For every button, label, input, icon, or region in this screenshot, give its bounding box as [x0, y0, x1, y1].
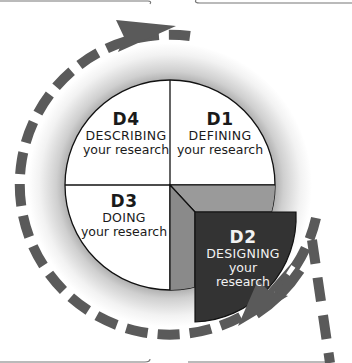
quadrant-d1: D1 DEFINING your research	[172, 110, 268, 157]
quadrant-d2: D2 DESIGNING your research	[198, 228, 288, 289]
d3-code: D3	[78, 192, 170, 211]
d4-code: D4	[82, 110, 170, 129]
diagram-graphics	[0, 0, 352, 363]
d2-sub-line2: research	[198, 275, 288, 289]
research-cycle-diagram: D4 DESCRIBING your research D1 DEFINING …	[0, 0, 352, 363]
d2-sub-line1: your	[198, 261, 288, 275]
d4-verb: DESCRIBING	[82, 129, 170, 143]
d2-code: D2	[198, 228, 288, 247]
exit-arrow	[312, 240, 330, 363]
d3-verb: DOING	[78, 211, 170, 225]
d4-sub: your research	[82, 143, 170, 157]
quadrant-d3: D3 DOING your research	[78, 192, 170, 239]
d2-verb: DESIGNING	[198, 247, 288, 261]
d1-code: D1	[172, 110, 268, 129]
d1-sub: your research	[172, 143, 268, 157]
quadrant-d4: D4 DESCRIBING your research	[82, 110, 170, 157]
d3-sub: your research	[78, 225, 170, 239]
d1-verb: DEFINING	[172, 129, 268, 143]
